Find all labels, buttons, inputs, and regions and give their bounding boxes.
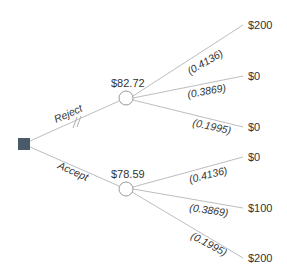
decision-node bbox=[18, 138, 30, 150]
payoff-accept-2: $100 bbox=[248, 202, 272, 214]
probability-reject-3: (0.1995) bbox=[192, 116, 233, 136]
expected-value-accept: $78.59 bbox=[111, 168, 145, 180]
branch-label-reject: Reject bbox=[52, 101, 85, 125]
probability-reject-2: (0.3869) bbox=[186, 81, 227, 100]
branch-label-accept: Accept bbox=[55, 158, 91, 183]
edge-accept-outcome-2 bbox=[133, 189, 243, 208]
payoff-reject-3: $0 bbox=[248, 121, 260, 133]
payoff-accept-1: $0 bbox=[248, 151, 260, 163]
chance-node-reject bbox=[119, 91, 133, 105]
payoff-reject-2: $0 bbox=[248, 70, 260, 82]
expected-value-reject: $82.72 bbox=[111, 77, 145, 89]
payoff-reject-1: $200 bbox=[248, 19, 272, 31]
decision-tree: Reject Accept $82.72 $78.59 (0.4136) (0.… bbox=[0, 0, 287, 278]
probability-reject-1: (0.4136) bbox=[185, 47, 225, 77]
probability-accept-2: (0.3869) bbox=[189, 201, 229, 218]
chance-node-accept bbox=[119, 182, 133, 196]
probability-accept-3: (0.1995) bbox=[189, 229, 229, 258]
blocked-branch-mark bbox=[73, 116, 81, 128]
edge-reject-outcome-1 bbox=[133, 25, 243, 96]
payoff-accept-3: $200 bbox=[248, 252, 272, 264]
